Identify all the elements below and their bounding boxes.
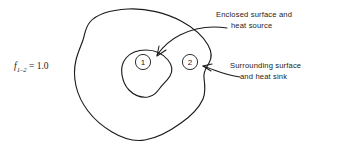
view-factor-equals: = [27, 61, 37, 71]
surface-1-label: 1 [141, 58, 146, 67]
annotation-enclosed-surface: Enclosed surface and heat source [216, 9, 292, 32]
annotation-surrounding-line-1: Surrounding surface [230, 61, 301, 70]
view-factor-label: f1–2 = 1.0 [14, 61, 49, 73]
annotation-enclosed-line-1: Enclosed surface and [216, 10, 292, 19]
surface-2-label: 2 [188, 58, 193, 67]
inner-body-boundary [122, 50, 172, 97]
annotation-surrounding-surface: Surrounding surface and heat sink [230, 60, 301, 83]
outer-enclosure-boundary [75, 9, 212, 141]
view-factor-subscript: 1–2 [17, 66, 27, 73]
annotation-enclosed-line-2: heat source [216, 20, 292, 31]
radiation-view-factor-figure: 1 2 f1–2 = 1.0 Enclosed surface and heat… [0, 0, 337, 146]
view-factor-value: 1.0 [37, 61, 49, 71]
annotation-surrounding-line-2: and heat sink [230, 71, 301, 82]
